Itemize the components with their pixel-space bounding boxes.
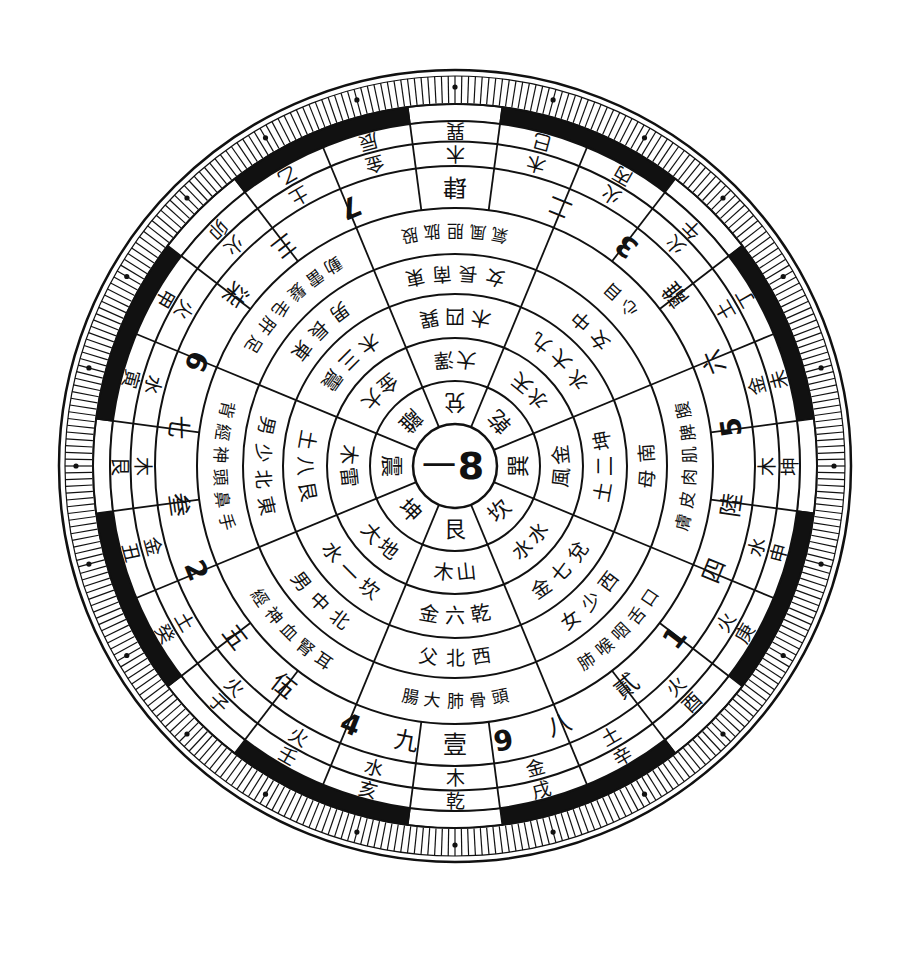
- element-pair-label: 澤: [433, 347, 455, 373]
- body-part-label: 肱: [423, 221, 442, 243]
- body-part-label: 風: [468, 221, 487, 243]
- family-member-label: 北: [252, 469, 275, 489]
- dot-marker: [263, 135, 268, 140]
- trigram-number-label: 土: [589, 480, 616, 504]
- dot-marker: [720, 195, 725, 200]
- center-disc: 一 8: [413, 424, 497, 508]
- dot-marker: [550, 97, 555, 102]
- dot-marker: [452, 842, 457, 847]
- family-member-label: 長: [458, 263, 478, 286]
- center-label-eight: 8: [458, 444, 484, 488]
- dot-marker: [818, 561, 823, 566]
- mountain-label: 乾: [446, 790, 465, 812]
- dot-marker: [550, 829, 555, 834]
- star-number-label: 九: [392, 725, 420, 757]
- trigram-label: 震: [379, 455, 404, 477]
- trigram-number-label: 金: [417, 600, 441, 627]
- element-pair-label: 風: [548, 466, 574, 488]
- family-member-label: 父: [417, 644, 439, 668]
- body-part-label: 脾: [676, 422, 698, 442]
- dot-marker: [184, 731, 189, 736]
- mountain-label: 艮: [109, 457, 131, 476]
- star-number-label: 肆: [443, 173, 467, 201]
- dot-marker: [263, 792, 268, 797]
- five-element-label: 木: [446, 767, 465, 789]
- trigram-number-label: 八: [293, 456, 317, 476]
- body-part-label: 頭: [210, 468, 231, 486]
- dot-marker: [452, 84, 457, 89]
- body-part-label: 大: [423, 689, 442, 711]
- star-number-label: 七: [163, 413, 194, 441]
- family-member-label: 西: [471, 644, 493, 668]
- dot-marker: [831, 463, 836, 468]
- dot-marker: [720, 731, 725, 736]
- trigram-number-label: 六: [445, 604, 465, 628]
- trigram-number-label: 木: [469, 305, 493, 332]
- element-pair-label: 雷: [336, 466, 362, 488]
- dot-marker: [781, 274, 786, 279]
- five-element-label: 木: [756, 457, 778, 476]
- trigram-label: 兌: [444, 390, 466, 415]
- element-pair-label: 木: [336, 444, 362, 466]
- body-part-label: 肺: [447, 691, 464, 711]
- element-pair-label: 山: [455, 559, 477, 585]
- family-member-label: 北: [446, 647, 465, 669]
- trigram-label: 巽: [506, 455, 531, 477]
- mountain-label: 巽: [446, 120, 465, 142]
- trigram-number-label: 乾: [469, 600, 493, 627]
- family-member-label: 少: [252, 442, 275, 462]
- dot-marker: [184, 195, 189, 200]
- body-part-label: 肌: [679, 446, 700, 464]
- element-pair-label: 大: [455, 347, 477, 373]
- dot-marker: [124, 653, 129, 658]
- body-part-label: 鼻: [211, 490, 233, 510]
- element-pair-label: 金: [548, 444, 574, 466]
- five-element-label: 木: [446, 143, 465, 165]
- dot-marker: [73, 463, 78, 468]
- trigram-number-label: 二: [593, 456, 617, 476]
- dot-marker: [124, 274, 129, 279]
- dot-marker: [86, 365, 91, 370]
- star-number-label: 壹: [443, 731, 467, 759]
- trigram-number-label: 四: [445, 304, 465, 328]
- dot-marker: [642, 792, 647, 797]
- star-number-label: 叁: [163, 491, 194, 519]
- five-element-label: 木: [132, 457, 154, 476]
- center-label-one: 一: [422, 446, 456, 486]
- body-part-label: 皮: [676, 490, 698, 510]
- luopan-compass-diagram: 兌乾巽坎艮坤震離澤大天水金風水水山木地大雷木大金巽四木九大水坤二土兌七金乾六金坎…: [0, 0, 899, 977]
- trigram-number-label: 巽: [417, 305, 441, 332]
- trigram-label: 艮: [444, 517, 466, 542]
- body-part-label: 肉: [679, 468, 700, 486]
- family-member-label: 南: [635, 442, 658, 462]
- dot-marker: [354, 97, 359, 102]
- family-member-label: 母: [635, 469, 658, 489]
- body-part-label: 經: [211, 422, 233, 442]
- element-pair-label: 木: [433, 559, 455, 585]
- body-part-label: 神: [210, 446, 231, 464]
- trigram-number-label: 坤: [589, 428, 616, 452]
- mountain-label: 坤: [779, 457, 801, 476]
- dot-marker: [86, 561, 91, 566]
- dot-marker: [818, 365, 823, 370]
- body-part-label: 骨: [468, 689, 487, 711]
- star-number-label: 陸: [716, 491, 747, 519]
- family-member-label: 南: [431, 263, 451, 286]
- body-part-label: 胆: [447, 221, 464, 241]
- dot-marker: [354, 829, 359, 834]
- dot-marker: [781, 653, 786, 658]
- trigram-number-label: 艮: [294, 480, 321, 504]
- dot-marker: [642, 135, 647, 140]
- trigram-number-label: 土: [294, 428, 321, 452]
